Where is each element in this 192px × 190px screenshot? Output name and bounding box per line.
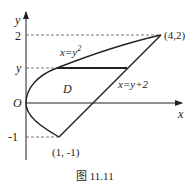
origin-label: O bbox=[13, 96, 22, 110]
x-axis-label: x bbox=[177, 107, 184, 121]
point-label-upper: (4,2) bbox=[164, 29, 185, 42]
parabola-label: x=y2 bbox=[59, 44, 81, 58]
y-axis-label: y bbox=[14, 13, 21, 27]
line-label: x=y+2 bbox=[117, 78, 149, 90]
tick-label-y: y bbox=[15, 61, 22, 75]
region-diagram: y x O 2 y -1 x=y2 x=y+2 D (4,2) (1, -1) … bbox=[0, 0, 192, 190]
figure-caption: 图 11.11 bbox=[76, 170, 114, 182]
tick-label-2: 2 bbox=[15, 29, 21, 43]
tick-label-minus1: -1 bbox=[8, 130, 18, 144]
point-label-lower: (1, -1) bbox=[52, 146, 80, 159]
region-label: D bbox=[62, 82, 72, 96]
